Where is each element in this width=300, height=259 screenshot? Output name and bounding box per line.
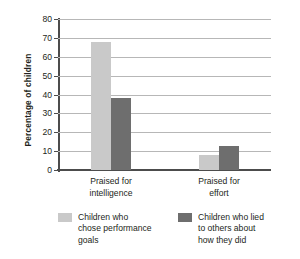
y-axis-tick-label: 0: [47, 165, 52, 175]
y-axis-tick: [54, 76, 58, 77]
x-axis-category-label-0: Praised for intelligence: [61, 176, 161, 199]
gridline: [58, 76, 271, 77]
legend-swatch-icon-light: [58, 213, 72, 222]
bar-chart-figure: Percentage of children 80706050403020100…: [0, 0, 300, 259]
bar-series-0-category-1: [199, 155, 219, 170]
y-axis-tick: [54, 132, 58, 133]
gridline: [58, 151, 271, 152]
y-axis-tick: [54, 95, 58, 96]
y-axis-tick-label: 60: [42, 52, 52, 62]
legend-entry-0: Children who chose performance goals: [58, 212, 152, 246]
y-axis-title: Percentage of children: [23, 25, 33, 175]
y-axis-tick-label: 80: [42, 14, 52, 24]
y-axis-tick: [54, 57, 58, 58]
plot-inner: 80706050403020100: [58, 19, 271, 171]
y-axis-tick-label: 10: [42, 146, 52, 156]
y-axis-tick-label: 50: [42, 71, 52, 81]
gridline: [58, 113, 271, 114]
bar-series-1-category-1: [219, 146, 239, 170]
x-axis-category-label-1: Praised for effort: [169, 176, 269, 199]
gridline: [58, 19, 271, 20]
plot-area: 80706050403020100: [58, 19, 271, 171]
gridline: [58, 132, 271, 133]
y-axis-tick: [54, 113, 58, 114]
y-axis-tick-label: 20: [42, 127, 52, 137]
gridline: [58, 95, 271, 96]
legend-entry-1: Children who lied to others about how th…: [178, 212, 264, 246]
y-axis-tick-label: 40: [42, 90, 52, 100]
gridline: [58, 57, 271, 58]
legend-label-0: Children who chose performance goals: [78, 212, 152, 246]
y-axis-tick: [54, 170, 58, 171]
chart-legend: Children who chose performance goals Chi…: [0, 212, 300, 258]
y-axis-tick-label: 30: [42, 108, 52, 118]
bar-series-1-category-0: [111, 98, 131, 170]
legend-label-1: Children who lied to others about how th…: [198, 212, 264, 246]
y-axis-tick: [54, 19, 58, 20]
y-axis-tick-label: 70: [42, 33, 52, 43]
y-axis-tick: [54, 151, 58, 152]
gridline: [58, 38, 271, 39]
legend-swatch-icon-dark: [178, 213, 192, 222]
bar-series-0-category-0: [91, 42, 111, 170]
y-axis-tick: [54, 38, 58, 39]
